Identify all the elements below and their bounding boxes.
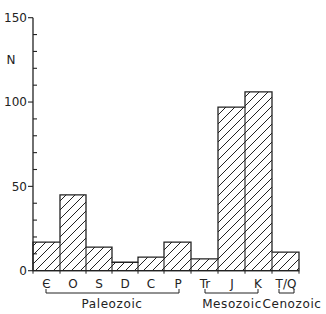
y-tick-0: 0 <box>19 264 27 278</box>
y-tick-50: 50 <box>12 180 27 194</box>
era-label-cenozoic: Cenozoic <box>262 297 321 311</box>
histogram-chart: 150 100 50 0 N Є O S D C P Tr J K T/Q Pa… <box>0 0 326 314</box>
x-label-devonian: D <box>120 277 129 291</box>
x-label-tertiary-quaternary: T/Q <box>275 277 297 291</box>
y-axis: 150 100 50 0 N <box>4 11 37 278</box>
histogram-bars <box>33 92 299 271</box>
x-label-cretaceous: K <box>254 277 263 291</box>
y-axis-label: N <box>7 53 16 67</box>
x-label-silurian: S <box>95 277 103 291</box>
y-tick-150: 150 <box>4 11 27 25</box>
x-label-cambrian: Є <box>42 277 50 291</box>
era-label-mesozoic: Mesozoic <box>202 297 262 311</box>
x-label-ordovician: O <box>68 277 77 291</box>
x-tick-labels: Є O S D C P Tr J K T/Q <box>42 277 296 291</box>
era-labels: Paleozoic Mesozoic Cenozoic <box>81 297 321 311</box>
x-label-permian: P <box>174 277 181 291</box>
bars <box>33 92 299 274</box>
x-label-carboniferous: C <box>147 277 155 291</box>
x-label-jurassic: J <box>229 277 234 291</box>
y-tick-100: 100 <box>4 95 27 109</box>
era-label-paleozoic: Paleozoic <box>81 297 142 311</box>
paleozoic-bracket <box>46 289 179 293</box>
x-label-triassic: Tr <box>199 277 211 291</box>
